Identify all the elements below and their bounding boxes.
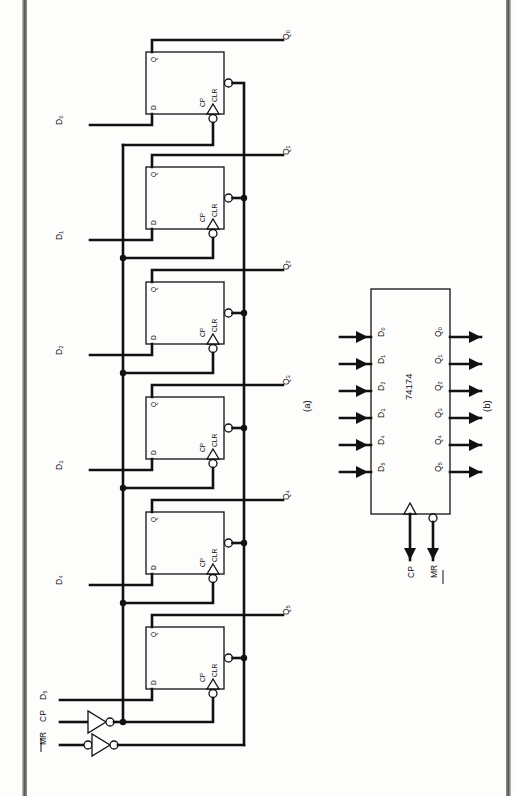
output-label-q4: Q₄: [281, 489, 291, 500]
block-output-label-q2: Q₂: [433, 381, 443, 391]
ff5-d-pin-label: D: [150, 680, 157, 685]
block-device-label: 74174: [403, 374, 414, 400]
d0-input-wire: [90, 114, 152, 125]
caption-part-b: (b): [481, 400, 492, 412]
block-input-label-d2: D₂: [376, 382, 386, 391]
clr-junction-4: [241, 540, 247, 546]
block-output-pins: [450, 331, 481, 478]
input-label-d2: D₂: [54, 346, 64, 355]
block-input-label-d0: D₀: [376, 327, 386, 337]
d5-input-wire: [60, 689, 152, 700]
ff2-d-pin-label: D: [150, 335, 157, 340]
ff4-d-pin-label: D: [150, 565, 157, 570]
page-canvas: Q D CP CLR Q D CP CLR: [0, 0, 515, 796]
input-label-d3: D₃: [54, 460, 64, 470]
block-input-pins: [340, 331, 371, 478]
ff1-clr-pin-label: CLR: [211, 204, 218, 217]
ff2-cp-pin-label: CP: [199, 327, 206, 337]
q3-output-wire: [152, 385, 283, 397]
figure-svg: Q D CP CLR Q D CP CLR: [0, 0, 515, 796]
input-label-mr: MR: [38, 732, 48, 745]
flipflop-stage-2: Q D CP CLR: [90, 270, 283, 376]
cp-junction-3: [120, 485, 126, 491]
reset-inverter: [60, 734, 244, 756]
block-clock-pin: CP: [404, 503, 416, 578]
clr-junction-5: [241, 655, 247, 661]
ff2-q-pin-label: Q: [150, 287, 158, 292]
block-input-label-d3: D₃: [376, 408, 386, 418]
block-reset-label: MR: [429, 565, 439, 578]
ff0-cp-pin-label: CP: [199, 97, 206, 107]
flipflop-stage-3: Q D CP CLR: [90, 385, 283, 491]
q4-output-wire: [152, 500, 283, 512]
cp-junction-4: [120, 600, 126, 606]
flipflop-stage-5: Q D CP CLR: [60, 615, 283, 725]
ff5-q-pin-label: Q: [150, 632, 158, 637]
ff2-clr-pin-label: CLR: [211, 319, 218, 332]
flipflop-stage-1: Q D CP CLR: [90, 155, 283, 261]
ff4-q-pin-label: Q: [150, 517, 158, 522]
clr-junction-2: [241, 310, 247, 316]
block-input-label-d1: D₁: [376, 355, 386, 364]
clr-junction-1: [241, 195, 247, 201]
ff4-clr-pin-label: CLR: [211, 549, 218, 562]
ff0-q-pin-label: Q: [150, 57, 158, 62]
d1-input-wire: [90, 229, 152, 240]
output-label-q5: Q₅: [281, 605, 291, 615]
block-output-label-q3: Q₃: [433, 408, 443, 418]
block-output-label-q5: Q₅: [433, 462, 443, 472]
ff1-d-pin-label: D: [150, 220, 157, 225]
q5-output-wire: [152, 615, 283, 627]
clock-inverter: [60, 711, 123, 733]
ff1-q-pin-label: Q: [150, 172, 158, 177]
cp-junction-2: [120, 370, 126, 376]
input-label-d1: D₁: [54, 231, 64, 240]
ff3-q-pin-label: Q: [150, 402, 158, 407]
ff3-cp-pin-label: CP: [199, 442, 206, 452]
ff0-clr-pin-label: CLR: [211, 89, 218, 102]
block-input-label-d4: D₄: [376, 435, 386, 445]
ff3-d-pin-label: D: [150, 450, 157, 455]
q0-output-wire: [152, 40, 283, 52]
block-output-label-q1: Q₁: [433, 354, 443, 364]
input-label-d0: D₀: [54, 115, 64, 125]
block-reset-pin: MR: [427, 514, 443, 584]
input-label-mr-group: MR: [38, 732, 48, 752]
output-label-q2: Q₂: [281, 260, 291, 270]
ff4-cp-pin-label: CP: [199, 557, 206, 567]
block-symbol-74174: 74174 D₀ D₁ D₂ D₃ D₄ D₅: [340, 289, 481, 584]
block-input-label-d5: D₅: [376, 462, 386, 472]
caption-part-a: (a): [301, 400, 312, 412]
ff5-clr-pin-label: CLR: [211, 664, 218, 677]
d4-input-wire: [90, 574, 152, 585]
flipflop-stage-0: Q D CP CLR: [90, 40, 283, 145]
ff3-clr-pin-label: CLR: [211, 434, 218, 447]
d2-input-wire: [90, 344, 152, 355]
ff1-cp-pin-label: CP: [199, 212, 206, 222]
ff5-cp-pin-label: CP: [199, 672, 206, 682]
flipflop-stage-4: Q D CP CLR: [90, 500, 283, 606]
input-label-d4: D₄: [54, 575, 64, 585]
block-output-label-q0: Q₀: [433, 326, 443, 337]
ff5-cp-wire: [123, 698, 213, 722]
block-clock-label: CP: [406, 566, 416, 578]
d3-input-wire: [90, 459, 152, 470]
output-label-q3: Q₃: [281, 375, 291, 385]
cp-junction-1: [120, 255, 126, 261]
block-output-label-q4: Q₄: [433, 434, 443, 445]
ff0-d-pin-label: D: [150, 105, 157, 110]
output-label-q0: Q₀: [281, 29, 291, 40]
output-label-q1: Q₁: [281, 145, 291, 155]
clr-junction-3: [241, 425, 247, 431]
q1-output-wire: [152, 155, 283, 167]
input-label-d5: D₅: [38, 690, 48, 700]
q2-output-wire: [152, 270, 283, 282]
input-label-cp: CP: [38, 710, 48, 722]
